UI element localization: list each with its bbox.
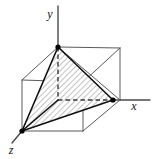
cube-edge-top-back	[58, 47, 120, 48]
figure-container: y x z	[0, 0, 155, 159]
z-axis-label: z	[8, 143, 14, 157]
geometry-figure: y x z	[0, 0, 155, 159]
y-axis-vertex-dot	[55, 44, 60, 49]
z-axis-vertex-dot	[19, 128, 24, 133]
y-axis-label: y	[46, 7, 53, 21]
x-axis-vertex-dot	[110, 97, 115, 102]
x-axis-label: x	[130, 99, 137, 113]
